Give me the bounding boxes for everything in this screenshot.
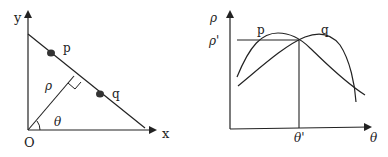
hough-transform-diagram: y x O p q ρ θ ρ ρ' p q θ' θ	[0, 0, 388, 157]
x-axis-label: x	[162, 126, 170, 141]
right-angle-marker	[68, 82, 81, 89]
theta-axis-label: θ	[370, 131, 378, 145]
curve-q-label: q	[321, 23, 329, 37]
curve-p-label: p	[257, 23, 265, 37]
diagram-svg: y x O p q ρ θ ρ ρ' p q θ' θ	[0, 0, 388, 157]
rho-prime-label: ρ'	[208, 34, 219, 48]
curve-p	[237, 33, 365, 95]
point-q-label: q	[112, 87, 120, 101]
theta-arc	[37, 121, 40, 130]
left-panel-image-space: y x O p q ρ θ	[13, 10, 170, 150]
point-p-label: p	[63, 41, 71, 55]
right-panel-parameter-space: ρ ρ' p q θ' θ	[208, 11, 378, 145]
rho-axis-label: ρ	[209, 11, 217, 25]
y-axis-label: y	[13, 10, 22, 25]
theta-axis	[230, 127, 370, 129]
origin-label: O	[24, 135, 35, 150]
theta-prime-label: θ'	[294, 131, 305, 145]
point-q-dot	[96, 91, 104, 98]
point-p-dot	[47, 50, 55, 57]
rho-label: ρ	[44, 79, 52, 93]
theta-label: θ	[54, 115, 62, 129]
